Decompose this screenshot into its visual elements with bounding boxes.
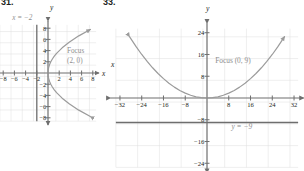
y-tick-label: 8: [43, 25, 46, 32]
x-tick-label: −16: [158, 101, 169, 108]
focus-label-line2: (2, 0): [67, 57, 83, 65]
x-tick-label: −4: [22, 75, 30, 82]
x-tick-label: 16: [247, 101, 254, 108]
y-axis-label: y: [49, 3, 54, 12]
focus-label-line1: Focus: [67, 47, 84, 55]
graph-31: −8−6−4−224688642−2−4−6−8xyFocus(2, 0)x =…: [0, 0, 110, 171]
focus-label: Focus(2, 0): [67, 47, 84, 65]
x-tick-label: −32: [115, 101, 125, 108]
directrix-label: y = −9: [230, 122, 252, 131]
directrix-label: x = −2: [11, 14, 32, 22]
figure-33: 33. −32−24−16−8816243224168−8−16−24xyFoc…: [100, 0, 304, 171]
y-tick-label: 24: [198, 29, 205, 36]
x-tick-label: 6: [80, 75, 83, 82]
x-tick-label: 8: [91, 75, 94, 82]
y-tick-label: −8: [197, 116, 205, 123]
figure-31: 31. −8−6−4−224688642−2−4−6−8xyFocus(2, 0…: [0, 0, 110, 171]
x-tick-label: 2: [58, 75, 61, 82]
y-tick-label: −2: [39, 81, 46, 88]
x-tick-label: 24: [269, 101, 276, 108]
y-tick-label: 2: [43, 58, 46, 65]
graph-33: −32−24−16−8816243224168−8−16−24xyFocus (…: [100, 0, 304, 171]
focus-label: Focus (0, 9): [215, 56, 251, 65]
x-tick-label: −24: [137, 101, 148, 108]
x-tick-label: −8: [182, 101, 190, 108]
y-axis-label: y: [205, 4, 210, 13]
x-axis-label: x: [110, 60, 115, 69]
axes: [110, 23, 303, 171]
x-tick-label: −6: [11, 75, 18, 82]
y-tick-label: 6: [43, 36, 46, 43]
y-tick-label: −8: [39, 114, 46, 121]
y-tick-label: −4: [39, 92, 47, 99]
y-tick-label: −6: [39, 103, 46, 110]
y-tick-label: −24: [194, 160, 205, 167]
x-tick-label: 32: [291, 101, 298, 108]
y-tick-label: −16: [194, 138, 205, 145]
x-tick-label: −8: [0, 75, 7, 82]
y-tick-label: 16: [198, 51, 205, 58]
